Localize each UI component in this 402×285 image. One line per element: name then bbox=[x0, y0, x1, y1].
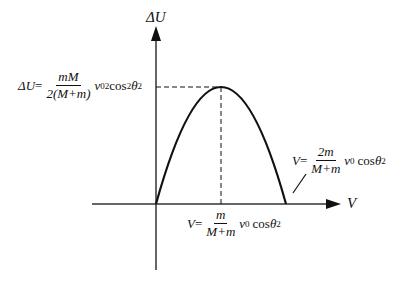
plot-canvas bbox=[0, 0, 402, 285]
x-axis-label-text: V bbox=[347, 195, 356, 211]
y-axis-label: ΔU bbox=[146, 10, 166, 25]
peak-theta-sub: 2 bbox=[138, 81, 143, 91]
vertex-cos: cos bbox=[253, 216, 270, 232]
peak-fraction: mM 2(M+m) bbox=[44, 70, 92, 102]
root-fraction: 2m M+m bbox=[309, 145, 342, 177]
vertex-equals: = bbox=[195, 216, 202, 232]
peak-energy-label: ΔU = mM 2(M+m) v02 cos2 θ2 bbox=[18, 70, 142, 102]
root-theta-sub: 2 bbox=[381, 156, 386, 166]
root-leader-line bbox=[293, 174, 306, 193]
peak-numerator: mM bbox=[56, 70, 80, 86]
vertex-lhs: V bbox=[187, 216, 195, 232]
root-v-sub: 0 bbox=[350, 156, 355, 166]
peak-cos: cos bbox=[109, 78, 126, 94]
root-equals: = bbox=[300, 153, 307, 169]
vertex-fraction: m M+m bbox=[204, 208, 237, 240]
root-cos: cos bbox=[358, 153, 375, 169]
root-lhs: V bbox=[292, 153, 300, 169]
y-axis-arrow-icon bbox=[151, 26, 161, 41]
vertex-denominator: M+m bbox=[204, 224, 237, 239]
x-axis-arrow-icon bbox=[326, 199, 341, 209]
peak-denominator: 2(M+m) bbox=[44, 86, 92, 101]
vertex-numerator: m bbox=[214, 208, 227, 224]
peak-lhs: ΔU bbox=[18, 78, 35, 94]
vertex-theta-sub: 2 bbox=[276, 219, 281, 229]
root-numerator: 2m bbox=[316, 145, 336, 161]
vertex-v-sub: 0 bbox=[245, 219, 250, 229]
root-velocity-label: V = 2m M+m v0 cos θ2 bbox=[292, 145, 386, 177]
root-denominator: M+m bbox=[309, 161, 342, 176]
y-axis-label-text: ΔU bbox=[146, 9, 166, 25]
x-axis-label: V bbox=[347, 196, 356, 211]
peak-equals: = bbox=[35, 78, 42, 94]
vertex-velocity-label: V = m M+m v0 cos θ2 bbox=[187, 208, 281, 240]
